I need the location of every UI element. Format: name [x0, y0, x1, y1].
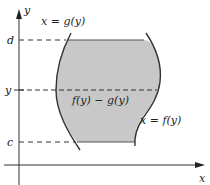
- slice-length-label: f(y) − g(y): [71, 94, 129, 107]
- curve-g-label: x = g(y): [41, 15, 85, 28]
- tick-label-c: c: [7, 136, 13, 149]
- x-axis-arrow-icon: [195, 162, 205, 168]
- y-axis-arrow-icon: [16, 9, 22, 19]
- tick-label-d: d: [7, 34, 14, 47]
- y-axis-label: y: [23, 4, 31, 17]
- curve-f-label: x = f(y): [140, 114, 181, 127]
- tick-label-y: y: [4, 84, 12, 97]
- x-axis-label: x: [199, 172, 206, 185]
- diagram-canvas: y x d y c x = g(y) x = f(y) f(y) − g(y): [0, 0, 210, 185]
